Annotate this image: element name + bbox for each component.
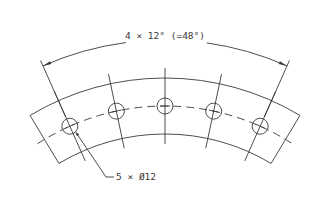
ring-left-end xyxy=(30,115,59,163)
dimension-arc-left xyxy=(43,43,126,66)
dimension-arrow-left xyxy=(43,61,51,66)
angular-dimension-label: 4 × 12° (=48°) xyxy=(125,30,205,41)
drawing-geometry xyxy=(30,43,300,177)
extension-line-left xyxy=(41,60,66,117)
hole-callout-label: 5 × Ø12 xyxy=(116,171,156,182)
hole-center-mark xyxy=(256,124,265,128)
hole-callout-leader xyxy=(76,132,114,177)
dimension-arc-right xyxy=(207,43,287,66)
technical-drawing: 4 × 12° (=48°) 5 × Ø12 xyxy=(0,0,334,197)
hole-center-mark xyxy=(65,124,74,128)
dimension-arrow-right xyxy=(279,61,287,66)
leader-arrowhead xyxy=(76,132,80,136)
extension-line-right xyxy=(264,60,289,117)
